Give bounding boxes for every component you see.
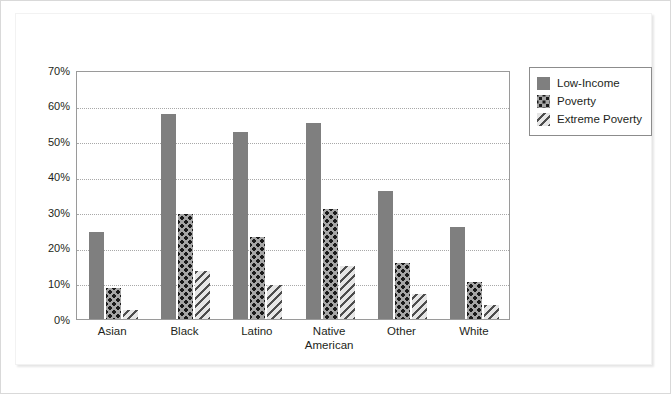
bar-group <box>89 72 138 319</box>
gridline <box>77 179 509 180</box>
bar-low-income[interactable] <box>306 123 321 319</box>
legend-label: Poverty <box>557 95 596 108</box>
x-tick-label-line: White <box>429 324 519 338</box>
chart-legend: Low-IncomePovertyExtreme Poverty <box>529 67 652 136</box>
bar-extreme[interactable] <box>340 266 355 319</box>
y-tick-label: 20% <box>24 243 70 254</box>
gridline <box>77 250 509 251</box>
gridline <box>77 214 509 215</box>
plot-area <box>76 71 510 320</box>
bar-group <box>378 72 427 319</box>
y-tick-label: 70% <box>24 66 70 77</box>
bar-low-income[interactable] <box>378 191 393 319</box>
y-tick-label: 30% <box>24 208 70 219</box>
legend-item[interactable]: Low-Income <box>537 75 642 92</box>
bar-group <box>450 72 499 319</box>
bar-poverty[interactable] <box>250 237 265 319</box>
legend-swatch-extreme-icon <box>537 113 550 126</box>
y-tick-label: 60% <box>24 101 70 112</box>
legend-item[interactable]: Poverty <box>537 93 642 110</box>
x-axis-tick-labels: AsianBlackLatinoNativeAmericanOtherWhite <box>76 324 510 364</box>
bar-poverty[interactable] <box>178 214 193 319</box>
bar-extreme[interactable] <box>412 294 427 319</box>
figure-frame: 70%60%50%40%30%20%10%0% AsianBlackLatino… <box>0 0 671 394</box>
bar-poverty[interactable] <box>106 288 121 319</box>
y-tick-label: 0% <box>24 315 70 326</box>
legend-swatch-poverty-icon <box>537 95 550 108</box>
legend-item[interactable]: Extreme Poverty <box>537 111 642 128</box>
legend-label: Extreme Poverty <box>557 113 642 126</box>
gridline <box>77 143 509 144</box>
bar-extreme[interactable] <box>484 305 499 319</box>
y-tick-label: 10% <box>24 279 70 290</box>
bar-group <box>233 72 282 319</box>
gridline <box>77 108 509 109</box>
bar-group <box>306 72 355 319</box>
chart-panel: 70%60%50%40%30%20%10%0% AsianBlackLatino… <box>15 13 652 365</box>
y-axis-tick-labels: 70%60%50%40%30%20%10%0% <box>22 71 70 320</box>
bar-group <box>161 72 210 319</box>
bar-extreme[interactable] <box>123 310 138 319</box>
bar-poverty[interactable] <box>467 282 482 319</box>
legend-label: Low-Income <box>557 77 620 90</box>
gridline <box>77 285 509 286</box>
bar-poverty[interactable] <box>323 209 338 319</box>
y-tick-label: 40% <box>24 172 70 183</box>
legend-swatch-low-income-icon <box>537 77 550 90</box>
bar-low-income[interactable] <box>161 114 176 319</box>
bar-poverty[interactable] <box>395 263 410 319</box>
bar-low-income[interactable] <box>89 232 104 319</box>
bar-extreme[interactable] <box>267 285 282 320</box>
bar-low-income[interactable] <box>233 132 248 319</box>
bar-extreme[interactable] <box>195 271 210 319</box>
x-tick-label: White <box>429 324 519 338</box>
bar-low-income[interactable] <box>450 227 465 319</box>
y-tick-label: 50% <box>24 137 70 148</box>
x-tick-label-line: American <box>284 338 374 352</box>
